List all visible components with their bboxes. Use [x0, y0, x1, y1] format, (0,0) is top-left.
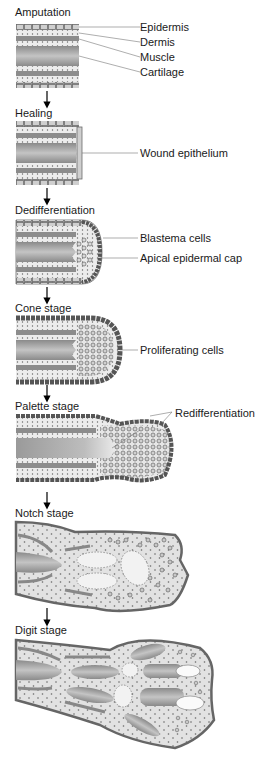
stage-notch-graphic	[16, 522, 188, 611]
stage-title-palette: Palette stage	[15, 400, 79, 412]
stage-title-cone: Cone stage	[15, 302, 71, 314]
label-dermis: Dermis	[140, 36, 175, 48]
stage-title-healing: Healing	[15, 107, 52, 119]
stage-dedifferentiation-graphic	[16, 220, 138, 284]
stage-digit-graphic	[16, 640, 214, 748]
stage-palette-graphic	[16, 412, 172, 480]
stage-cone-graphic	[16, 318, 138, 382]
stage-title-digit: Digit stage	[15, 624, 67, 636]
label-proliferating-cells: Proliferating cells	[140, 344, 224, 356]
stage-title-notch: Notch stage	[15, 507, 74, 519]
label-muscle: Muscle	[140, 51, 175, 63]
label-wound-epithelium: Wound epithelium	[140, 147, 228, 159]
label-cartilage: Cartilage	[140, 66, 184, 78]
stage-healing-graphic	[16, 121, 138, 185]
stage-title-dedifferentiation: Dedifferentiation	[15, 204, 95, 216]
label-epidermis: Epidermis	[140, 21, 189, 33]
label-apical-epidermal-cap: Apical epidermal cap	[140, 252, 242, 264]
stage-amputation-graphic	[16, 24, 140, 88]
label-redifferentiation: Redifferentiation	[175, 407, 255, 419]
label-blastema-cells: Blastema cells	[140, 232, 211, 244]
stage-title-amputation: Amputation	[15, 6, 71, 18]
